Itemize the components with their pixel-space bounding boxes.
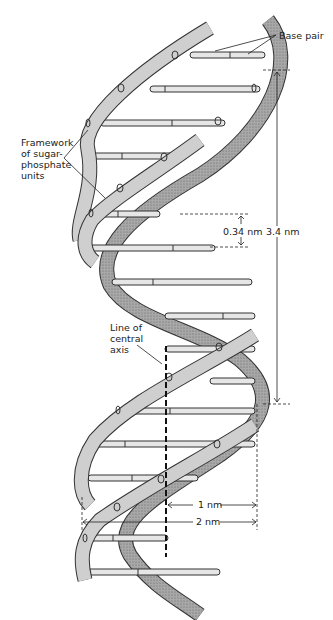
- label-base-pair: Base pair: [279, 30, 324, 41]
- label-radius: 1 nm: [198, 499, 222, 510]
- label-framework: Framework of sugar- phosphate units: [21, 137, 74, 181]
- label-rise-per-base: 0.34 nm: [223, 226, 262, 237]
- label-central-axis: Line of central axis: [110, 322, 143, 355]
- dna-helix-diagram: [0, 0, 333, 620]
- label-pitch: 3.4 nm: [266, 226, 299, 237]
- label-diameter: 2 nm: [196, 516, 220, 527]
- base-pairs: [85, 52, 265, 575]
